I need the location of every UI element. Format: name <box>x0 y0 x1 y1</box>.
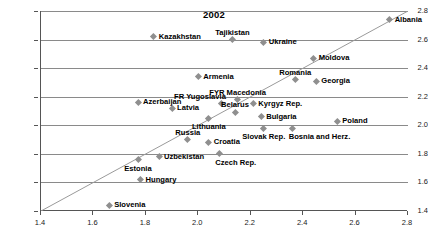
data-point-label: Ukraine <box>269 38 297 46</box>
x-axis-tick-label-1.4: 1.4 <box>20 219 60 227</box>
gridline-y-2.6 <box>41 40 408 41</box>
y-axis-tick-label-2.4: 2.4 <box>394 64 428 72</box>
data-point-label: Czech Rep. <box>215 159 256 167</box>
x-axis-tick-mark-1.8 <box>145 211 146 215</box>
data-point-label: Tajikistan <box>215 29 249 37</box>
y-axis-tick-label-1.6: 1.6 <box>394 178 428 186</box>
data-point-label: Hungary <box>146 176 177 184</box>
x-axis-tick-mark-2.6 <box>355 211 356 215</box>
data-point-label: Slovenia <box>114 201 145 209</box>
data-point-label: Uzbekistan <box>164 153 204 161</box>
x-axis-tick-mark-2.0 <box>197 211 198 215</box>
gridline-y-2.4 <box>41 68 408 69</box>
data-point-marker <box>386 16 393 23</box>
y-axis-tick-label-1.4: 1.4 <box>394 207 428 215</box>
y-axis-tick-mark-2.4 <box>34 68 38 69</box>
data-point-marker <box>250 100 257 107</box>
y-axis-tick-mark-2.8 <box>34 11 38 12</box>
data-point-marker <box>229 36 236 43</box>
y-axis-tick-mark-2.2 <box>34 97 38 98</box>
data-point-label: Bosnia and Herz. <box>289 133 351 141</box>
identity-reference-line <box>41 11 408 211</box>
x-axis-tick-label-1.6: 1.6 <box>72 219 112 227</box>
y-axis-tick-label-2.6: 2.6 <box>394 36 428 44</box>
y-axis-tick-mark-1.4 <box>34 211 38 212</box>
data-point-label: Georgia <box>321 77 350 85</box>
data-point-label: Moldova <box>319 54 350 62</box>
data-point-label: FR Yugoslavia <box>174 93 226 101</box>
gridline-y-1.6 <box>41 182 408 183</box>
data-point-marker <box>258 113 265 120</box>
x-axis-tick-mark-1.6 <box>92 211 93 215</box>
x-axis-tick-label-2.4: 2.4 <box>282 219 322 227</box>
data-point-label: Latvia <box>177 104 199 112</box>
data-point-label: Croatia <box>214 138 240 146</box>
data-point-marker <box>195 73 202 80</box>
data-point-label: Poland <box>342 117 367 125</box>
plot-area: AlbaniaKazakhstanTajikistanUkraineMoldov… <box>40 11 407 211</box>
data-point-marker <box>184 136 191 143</box>
y-axis-tick-mark-2.0 <box>34 125 38 126</box>
data-point-label: Romania <box>279 69 311 77</box>
scatter-chart: 2002 AlbaniaKazakhstanTajikistanUkraineM… <box>0 0 428 234</box>
data-point-marker <box>216 150 223 157</box>
data-point-label: Albania <box>395 16 422 24</box>
data-point-label: Slovak Rep. <box>242 133 285 141</box>
data-point-marker <box>292 76 299 83</box>
x-axis-tick-mark-2.4 <box>302 211 303 215</box>
data-point-marker <box>106 202 113 209</box>
y-axis-tick-label-1.8: 1.8 <box>394 150 428 158</box>
data-point-label: Kyrgyz Rep. <box>258 100 302 108</box>
data-point-label: Armenia <box>203 73 233 81</box>
data-point-label: Belarus <box>221 101 249 109</box>
x-axis-tick-label-2.2: 2.2 <box>230 219 270 227</box>
data-point-label: Bulgaria <box>266 113 296 121</box>
data-point-marker <box>310 55 317 62</box>
data-point-marker <box>156 153 163 160</box>
data-point-label: Russia <box>175 129 200 137</box>
y-axis-tick-label-2.8: 2.8 <box>394 7 428 15</box>
x-axis-tick-mark-1.4 <box>40 211 41 215</box>
data-point-label: Kazakhstan <box>159 33 201 41</box>
y-axis-tick-mark-1.8 <box>34 154 38 155</box>
data-point-marker <box>334 118 341 125</box>
gridline-y-2.8 <box>41 11 408 12</box>
data-point-label: Estonia <box>124 165 151 173</box>
x-axis-tick-label-1.8: 1.8 <box>125 219 165 227</box>
y-axis-tick-mark-2.6 <box>34 40 38 41</box>
x-axis-tick-label-2.8: 2.8 <box>387 219 427 227</box>
y-axis-tick-label-2.2: 2.2 <box>394 93 428 101</box>
data-point-marker <box>313 78 320 85</box>
x-axis-tick-label-2.0: 2.0 <box>177 219 217 227</box>
data-point-marker <box>205 115 212 122</box>
x-axis-tick-label-2.6: 2.6 <box>335 219 375 227</box>
y-axis-tick-mark-1.6 <box>34 182 38 183</box>
data-point-marker <box>232 109 239 116</box>
gridline-y-1.8 <box>41 154 408 155</box>
data-point-marker <box>205 139 212 146</box>
x-axis-tick-mark-2.2 <box>250 211 251 215</box>
x-axis-tick-mark-2.8 <box>407 211 408 215</box>
data-point-marker <box>135 156 142 163</box>
data-point-marker <box>135 99 142 106</box>
y-axis-tick-label-2.0: 2.0 <box>394 121 428 129</box>
